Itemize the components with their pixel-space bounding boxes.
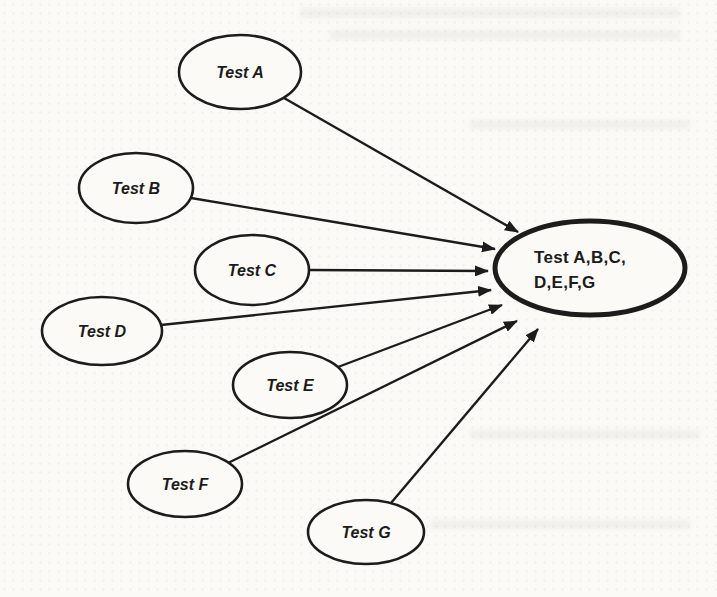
node-test-b: Test B	[79, 153, 193, 223]
edges	[161, 98, 538, 503]
node-hub-label-line1: Test A,B,C,	[534, 248, 626, 267]
edge-test-e-to-hub	[338, 305, 502, 367]
node-test-d-label: Test D	[78, 323, 127, 340]
edge-test-g-to-hub	[391, 329, 538, 503]
node-test-g: Test G	[308, 500, 424, 564]
node-test-b-label: Test B	[112, 180, 160, 197]
node-test-a: Test A	[179, 35, 301, 109]
node-test-d: Test D	[42, 297, 162, 365]
edge-test-a-to-hub	[284, 98, 518, 232]
node-hub-ellipse	[495, 221, 685, 315]
node-hub-label-line2: D,E,F,G	[534, 273, 596, 292]
node-test-c-label: Test C	[228, 262, 277, 279]
edge-test-c-to-hub	[309, 270, 488, 271]
node-test-f-label: Test F	[162, 476, 210, 493]
nodes: Test A Test B Test C Test D Test E Test …	[42, 35, 685, 564]
node-test-g-label: Test G	[341, 524, 390, 541]
test-convergence-diagram: Test A Test B Test C Test D Test E Test …	[0, 0, 717, 597]
node-test-e: Test E	[233, 352, 347, 418]
node-test-e-label: Test E	[266, 377, 315, 394]
node-test-f: Test F	[128, 451, 242, 517]
node-test-a-label: Test A	[216, 64, 264, 81]
node-test-c: Test C	[195, 235, 309, 305]
node-hub: Test A,B,C, D,E,F,G	[495, 221, 685, 315]
